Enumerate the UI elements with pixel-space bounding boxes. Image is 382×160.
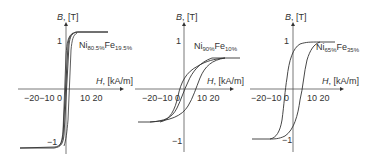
hysteresis-figure: B, [T] H, [kA/m] 1 −1 −20−10 0 10 20 Ni8… — [0, 0, 382, 160]
y-tick-1: 1 — [176, 36, 181, 46]
hysteresis-descending — [150, 58, 225, 122]
x-axis-label: H, [kA/m] — [322, 76, 359, 86]
x-axis-label: H, [kA/m] — [96, 76, 133, 86]
panel-ni90-fe10: B, [T] H, [kA/m] 1 −1 −20−10 0 10 20 Ni9… — [135, 12, 244, 152]
x-tick-labels: −20−10 0 — [251, 93, 289, 103]
material-label: Ni90%Fe10% — [194, 41, 238, 52]
hysteresis-descending — [270, 42, 320, 139]
x-tick-labels-pos: 10 20 — [197, 93, 220, 103]
x-tick-labels: −20−10 0 — [24, 93, 62, 103]
hysteresis-upper — [160, 58, 225, 122]
y-tick-1: 1 — [284, 36, 289, 46]
y-tick-neg1: −1 — [47, 137, 57, 147]
x-tick-labels-pos: 10 20 — [80, 93, 103, 103]
panel-ni80-fe19: B, [T] H, [kA/m] 1 −1 −20−10 0 10 20 Ni8… — [18, 12, 133, 154]
x-axis-label: H, [kA/m] — [207, 76, 244, 86]
y-axis-label: B, [T] — [57, 12, 79, 22]
x-tick-labels-pos: 10 20 — [307, 93, 330, 103]
panel-ni65-fe35: B, [T] H, [kA/m] 1 −1 −20−10 0 10 20 Ni6… — [250, 12, 360, 152]
y-axis-label: B, [T] — [285, 12, 307, 22]
material-label: Ni65%Fe35% — [316, 42, 360, 53]
x-tick-labels: −20−10 0 — [142, 93, 180, 103]
material-label: Ni80.5%Fe19.5% — [79, 40, 133, 51]
y-tick-1: 1 — [57, 36, 62, 46]
y-tick-neg1: −1 — [172, 136, 182, 146]
y-axis-label: B, [T] — [176, 12, 198, 22]
hysteresis-ascending — [138, 58, 240, 122]
